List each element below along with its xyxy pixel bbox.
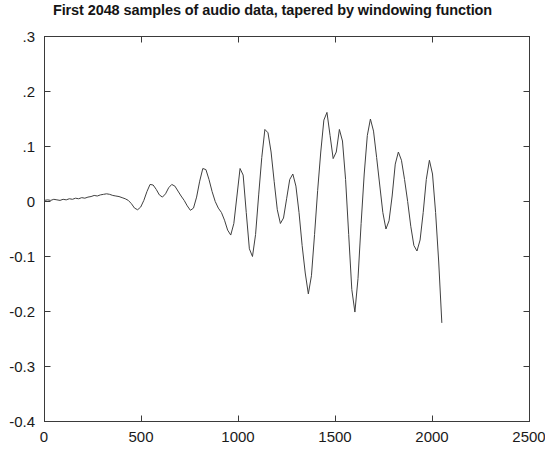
waveform-plot	[44, 36, 530, 422]
x-tick-label: 1000	[221, 428, 254, 445]
x-tick-label: 2500	[512, 428, 545, 445]
y-tick-label: .2	[0, 83, 35, 100]
y-tick-label: 0	[0, 193, 35, 210]
chart-figure: First 2048 samples of audio data, tapere…	[0, 0, 545, 453]
y-tick-label: -0.4	[0, 413, 35, 430]
y-tick-label: .3	[0, 28, 35, 45]
x-tick-label: 2000	[415, 428, 448, 445]
x-tick-label: 500	[128, 428, 153, 445]
y-tick-label: -0.3	[0, 358, 35, 375]
y-tick-label: -0.2	[0, 303, 35, 320]
x-tick-label: 1500	[318, 428, 351, 445]
x-axis-ticks	[45, 37, 530, 422]
x-tick-label: 0	[40, 428, 48, 445]
chart-title: First 2048 samples of audio data, tapere…	[0, 2, 545, 18]
axis-frame	[45, 37, 530, 422]
y-tick-label: -0.1	[0, 248, 35, 265]
y-tick-label: .1	[0, 138, 35, 155]
plot-area	[44, 36, 530, 422]
waveform-line	[45, 112, 442, 322]
y-axis-ticks	[45, 37, 530, 422]
